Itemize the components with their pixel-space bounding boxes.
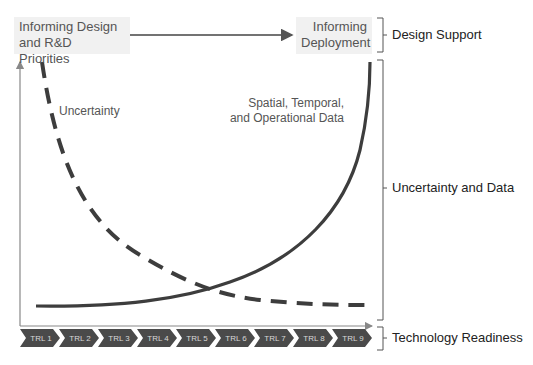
technology-readiness-bracket [377,327,387,350]
trl-chevron: TRL 5 [176,329,216,347]
data-curve-label: Spatial, Temporal, and Operational Data [226,96,344,126]
design-support-label: Design Support [392,27,482,42]
trl-chevron: TRL 7 [254,329,294,347]
trl-chevron: TRL 6 [215,329,255,347]
trl-label: TRL 1 [30,334,52,343]
trl-chevron: TRL 1 [20,329,60,347]
uncertainty-curve-label: Uncertainty [59,104,120,119]
informing-deployment-box: Informing Deployment [296,17,372,54]
trl-label: TRL 7 [264,334,286,343]
trl-label: TRL 8 [303,334,325,343]
trl-chevron: TRL 2 [59,329,99,347]
data-curve-label-line2: and Operational Data [226,111,344,126]
trl-label: TRL 3 [108,334,130,343]
trl-label: TRL 2 [69,334,91,343]
technology-readiness-label: Technology Readiness [392,330,523,345]
trl-chevron: TRL 4 [137,329,177,347]
informing-design-line1: Informing Design [19,19,125,35]
trl-chevron: TRL 3 [98,329,138,347]
informing-design-line2: and R&D Priorities [19,35,125,67]
uncertainty-data-bracket [377,60,387,320]
informing-design-box: Informing Design and R&D Priorities [14,17,130,54]
informing-deployment-line1: Informing [301,19,367,35]
trl-label: TRL 4 [147,334,169,343]
trl-chevron: TRL 9 [332,329,372,347]
trl-label: TRL 9 [342,334,364,343]
data-curve-label-line1: Spatial, Temporal, [226,96,344,111]
informing-deployment-line2: Deployment [301,35,367,51]
design-support-bracket [377,18,387,52]
trl-label: TRL 5 [186,334,208,343]
uncertainty-and-data-label: Uncertainty and Data [392,180,514,195]
trl-chevron: TRL 8 [293,329,333,347]
trl-label: TRL 6 [225,334,247,343]
trl-chevron-row: TRL 1 TRL 2 TRL 3 TRL 4 TRL 5 TRL 6 TRL … [20,329,372,347]
